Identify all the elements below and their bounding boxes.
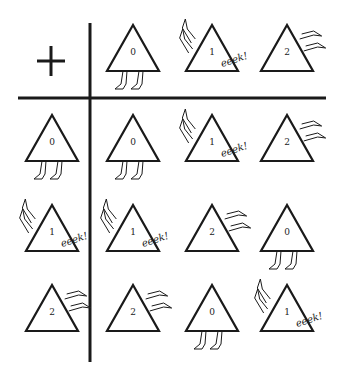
triangle-label: 0 bbox=[130, 137, 136, 147]
triangle-0: 0 bbox=[261, 205, 313, 269]
triangle-label: 2 bbox=[284, 47, 290, 57]
triangle-2: 2 bbox=[107, 285, 172, 331]
triangle-0: 0 bbox=[186, 285, 238, 349]
triangle-label: 1 bbox=[284, 307, 290, 317]
triangle-label: 1 bbox=[209, 47, 215, 57]
triangle-1: 1eeek! bbox=[180, 19, 249, 71]
triangle-label: 0 bbox=[130, 47, 136, 57]
triangle-label: 1 bbox=[209, 137, 215, 147]
triangle-1: 1eeek! bbox=[180, 109, 249, 161]
triangle-2: 2 bbox=[186, 205, 251, 251]
triangle-label: 0 bbox=[284, 227, 290, 237]
cayley-table: 01eeek!2001eeek!21eeek!1eeek!202201eeek! bbox=[0, 0, 344, 382]
triangle-2: 2 bbox=[261, 25, 326, 71]
triangle-label: 2 bbox=[49, 307, 55, 317]
triangle-2: 2 bbox=[261, 115, 326, 161]
triangle-1: 1eeek! bbox=[255, 279, 324, 331]
triangle-label: 0 bbox=[49, 137, 55, 147]
triangle-label: 0 bbox=[209, 307, 215, 317]
triangle-1: 1eeek! bbox=[101, 199, 170, 251]
triangle-2: 2 bbox=[26, 285, 91, 331]
triangle-1: 1eeek! bbox=[20, 199, 89, 251]
triangle-label: 1 bbox=[130, 227, 136, 237]
triangle-label: 1 bbox=[49, 227, 55, 237]
triangle-0: 0 bbox=[26, 115, 78, 179]
triangle-label: 2 bbox=[209, 227, 215, 237]
triangle-0: 0 bbox=[107, 25, 159, 89]
triangle-0: 0 bbox=[107, 115, 159, 179]
triangle-label: 2 bbox=[284, 137, 290, 147]
plus-icon bbox=[37, 46, 65, 76]
triangle-label: 2 bbox=[130, 307, 136, 317]
